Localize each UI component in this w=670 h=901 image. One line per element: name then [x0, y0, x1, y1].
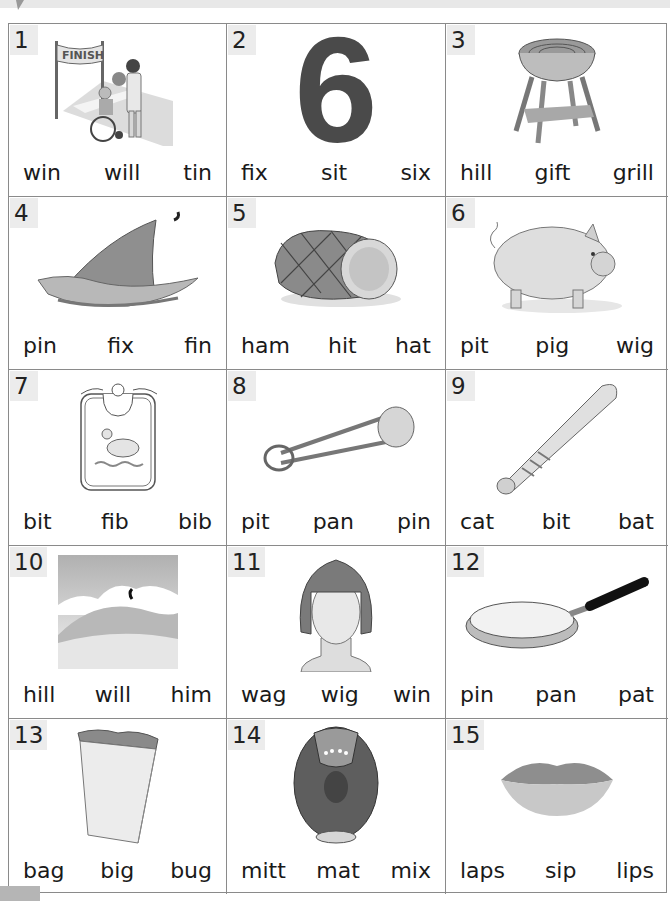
answer-choices: pin fix fin — [23, 333, 212, 359]
bib-picture — [9, 376, 226, 496]
item-cell-11: 11 wag wig win — [227, 546, 446, 719]
choice-word[interactable]: lips — [616, 858, 654, 884]
answer-choices: bit fib bib — [23, 509, 212, 535]
choice-word[interactable]: bug — [170, 858, 212, 884]
worksheet-grid: 1 FINISH win will t — [8, 23, 667, 893]
choice-word[interactable]: pit — [460, 333, 489, 359]
item-cell-12: 12 pin pan pat — [446, 546, 668, 719]
svg-text:FINISH: FINISH — [62, 49, 104, 62]
choice-word[interactable]: bit — [542, 509, 571, 535]
baseball-mitt-picture — [227, 725, 445, 845]
answer-choices: win will tin — [23, 160, 212, 186]
choice-word[interactable]: fix — [241, 160, 268, 186]
choice-word[interactable]: will — [95, 682, 131, 708]
page-corner-tab — [0, 886, 40, 901]
answer-choices: fix sit six — [241, 160, 431, 186]
answer-choices: hill gift grill — [460, 160, 654, 186]
choice-word[interactable]: wig — [616, 333, 654, 359]
big-six-digit: 6 — [294, 30, 377, 150]
item-cell-6: 6 pit pig wig — [446, 197, 668, 370]
page-top-strip — [0, 0, 670, 8]
pig-picture — [446, 203, 668, 323]
choice-word[interactable]: bag — [23, 858, 64, 884]
choice-word[interactable]: hill — [23, 682, 55, 708]
choice-word[interactable]: gift — [534, 160, 570, 186]
wig-picture — [227, 552, 445, 672]
choice-word[interactable]: mat — [316, 858, 360, 884]
choice-word[interactable]: pit — [241, 509, 270, 535]
item-cell-15: 15 laps sip lips — [446, 719, 668, 894]
choice-word[interactable]: six — [400, 160, 431, 186]
item-cell-10: 10 hill will him — [9, 546, 227, 719]
choice-word[interactable]: pig — [535, 333, 569, 359]
choice-word[interactable]: ham — [241, 333, 290, 359]
safety-pin-picture — [227, 376, 445, 496]
item-cell-8: 8 pit pan pin — [227, 370, 446, 546]
grill-picture — [446, 30, 668, 150]
choice-word[interactable]: fib — [101, 509, 129, 535]
choice-word[interactable]: pin — [23, 333, 57, 359]
choice-word[interactable]: bat — [618, 509, 654, 535]
item-cell-14: 14 mitt mat mix — [227, 719, 446, 894]
item-cell-7: 7 bit fib bib — [9, 370, 227, 546]
choice-word[interactable]: pin — [397, 509, 431, 535]
choice-word[interactable]: fin — [184, 333, 212, 359]
item-cell-1: 1 FINISH win will t — [9, 24, 227, 197]
answer-choices: wag wig win — [241, 682, 431, 708]
choice-word[interactable]: laps — [460, 858, 505, 884]
answer-choices: mitt mat mix — [241, 858, 431, 884]
item-cell-5: 5 ham hit hat — [227, 197, 446, 370]
choice-word[interactable]: hat — [395, 333, 431, 359]
choice-word[interactable]: pan — [313, 509, 354, 535]
lips-picture — [446, 725, 668, 845]
choice-word[interactable]: bib — [178, 509, 212, 535]
choice-word[interactable]: big — [100, 858, 134, 884]
paper-bag-picture — [9, 725, 226, 845]
choice-word[interactable]: will — [104, 160, 140, 186]
choice-word[interactable]: wag — [241, 682, 286, 708]
finish-line-picture: FINISH — [9, 30, 226, 150]
choice-word[interactable]: cat — [460, 509, 494, 535]
bat-picture — [446, 376, 668, 496]
item-cell-2: 2 6 fix sit six — [227, 24, 446, 197]
ham-picture — [227, 203, 445, 323]
answer-choices: ham hit hat — [241, 333, 431, 359]
number-six-picture: 6 — [227, 30, 445, 150]
choice-word[interactable]: wig — [321, 682, 359, 708]
answer-choices: hill will him — [23, 682, 212, 708]
answer-choices: pin pan pat — [460, 682, 654, 708]
shark-fin-picture — [9, 203, 226, 323]
corner-decoration-icon — [16, 0, 30, 10]
choice-word[interactable]: fix — [107, 333, 134, 359]
item-cell-13: 13 bag big bug — [9, 719, 227, 894]
choice-word[interactable]: sit — [321, 160, 347, 186]
choice-word[interactable]: win — [23, 160, 61, 186]
choice-word[interactable]: sip — [545, 858, 577, 884]
answer-choices: laps sip lips — [460, 858, 654, 884]
hill-landscape-picture — [9, 552, 226, 672]
choice-word[interactable]: tin — [183, 160, 212, 186]
choice-word[interactable]: hit — [328, 333, 357, 359]
frying-pan-picture — [446, 552, 668, 672]
choice-word[interactable]: pan — [535, 682, 576, 708]
choice-word[interactable]: bit — [23, 509, 52, 535]
choice-word[interactable]: mitt — [241, 858, 286, 884]
choice-word[interactable]: mix — [390, 858, 431, 884]
choice-word[interactable]: hill — [460, 160, 492, 186]
item-cell-4: 4 pin fix fin — [9, 197, 227, 370]
choice-word[interactable]: pat — [618, 682, 654, 708]
choice-word[interactable]: pin — [460, 682, 494, 708]
choice-word[interactable]: grill — [613, 160, 654, 186]
answer-choices: pit pig wig — [460, 333, 654, 359]
answer-choices: bag big bug — [23, 858, 212, 884]
answer-choices: cat bit bat — [460, 509, 654, 535]
choice-word[interactable]: win — [393, 682, 431, 708]
item-cell-3: 3 hill gift grill — [446, 24, 668, 197]
answer-choices: pit pan pin — [241, 509, 431, 535]
item-cell-9: 9 cat bit bat — [446, 370, 668, 546]
choice-word[interactable]: him — [171, 682, 213, 708]
